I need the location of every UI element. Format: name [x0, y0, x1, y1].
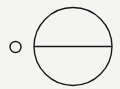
small-circle-point — [10, 42, 21, 53]
geometry-diagram — [0, 0, 120, 89]
